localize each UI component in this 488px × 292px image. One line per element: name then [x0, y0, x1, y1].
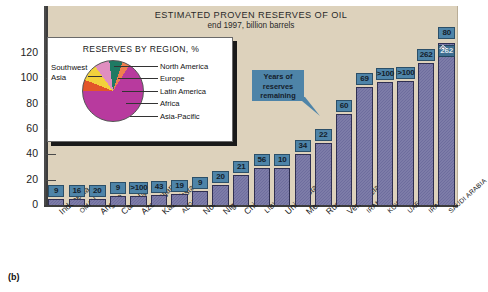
years-remaining-label-algeria: 19	[171, 180, 187, 192]
y-axis-tick-label: 20	[6, 173, 38, 185]
bar-uae[interactable]	[397, 81, 413, 205]
years-remaining-label-nigeria: 20	[212, 171, 228, 183]
years-remaining-label-azerbaijan: >100	[129, 182, 147, 194]
y-axis-tick	[44, 154, 56, 155]
pie-label-southwest-asia-line1: Southwest	[51, 63, 87, 73]
years-remaining-label-uae: >100	[396, 67, 414, 79]
bar-iran[interactable]	[356, 87, 372, 205]
bar-saudi-arabia[interactable]	[438, 43, 454, 205]
bar-russia[interactable]	[315, 143, 331, 205]
pie-legend-label-europe: Europe	[160, 74, 185, 83]
bar-united-states[interactable]	[274, 168, 290, 205]
years-remaining-label-iraq: 262	[417, 49, 435, 61]
y-axis-tick-label: 60	[6, 122, 38, 134]
pie-legend-label-asia-pacific: Asia-Pacific	[160, 112, 200, 121]
y-axis-tick	[44, 180, 56, 181]
years-remaining-label-china: 21	[233, 161, 249, 173]
pie-leader-line	[118, 78, 158, 79]
pie-label-southwest-asia: Southwest Asia	[51, 63, 87, 82]
callout-line-3: remaining	[252, 91, 304, 101]
years-remaining-label-russia: 22	[315, 129, 331, 141]
y-axis-tick-label: 40	[6, 147, 38, 159]
bar-nigeria[interactable]	[212, 185, 228, 205]
pie-legend-label-north-america: North America	[160, 62, 208, 71]
callout-line-2: reserves	[252, 82, 304, 92]
bar-venezuela[interactable]	[336, 114, 352, 205]
bar-china[interactable]	[233, 175, 249, 205]
years-remaining-label-saudi-arabia-top: 80	[438, 27, 454, 39]
years-remaining-label-oman: 16	[69, 185, 85, 197]
pie-leader-line	[114, 66, 158, 67]
callout-line-1: Years of	[252, 72, 304, 82]
pie-leader-line-southwest-asia	[88, 76, 102, 77]
pie-leader-line	[122, 91, 158, 92]
callout-years-remaining: Years of reserves remaining	[252, 70, 304, 101]
years-remaining-label-canada: 9	[110, 182, 126, 194]
years-remaining-label-iran: 69	[356, 73, 372, 85]
years-remaining-label-norway: 9	[192, 177, 208, 189]
pie-legend-label-africa: Africa	[160, 99, 179, 108]
y-axis-tick-label: 120	[6, 46, 38, 58]
y-axis-tick-label: 0	[6, 198, 38, 210]
years-remaining-label-saudi-arabia: 262	[438, 45, 454, 57]
years-remaining-label-kazakhstan: 43	[151, 181, 167, 193]
pie-leader-line	[126, 103, 158, 104]
figure-caption: (b)	[8, 272, 20, 282]
pie-label-southwest-asia-line2: Asia	[51, 73, 87, 83]
years-remaining-label-united-states: 10	[274, 154, 290, 166]
bar-libya[interactable]	[254, 168, 270, 205]
bar-iraq[interactable]	[418, 63, 434, 205]
years-remaining-label-kuwait: >100	[376, 68, 394, 80]
bar-mexico[interactable]	[295, 154, 311, 205]
pie-leader-line	[130, 116, 158, 117]
years-remaining-label-indonesia: 9	[48, 185, 64, 197]
years-remaining-label-venezuela: 60	[336, 100, 352, 112]
pie-legend-label-latin-america: Latin America	[160, 87, 206, 96]
y-axis-tick-label: 100	[6, 71, 38, 83]
years-remaining-label-angola: 20	[89, 185, 105, 197]
inset-title: RESERVES BY REGION, %	[48, 44, 234, 54]
y-axis-tick-label: 80	[6, 97, 38, 109]
bar-kuwait[interactable]	[377, 82, 393, 205]
years-remaining-label-libya: 56	[254, 154, 270, 166]
years-remaining-label-mexico: 34	[295, 140, 311, 152]
pie-inset-panel: RESERVES BY REGION, % Southwest Asia Nor…	[47, 37, 233, 142]
